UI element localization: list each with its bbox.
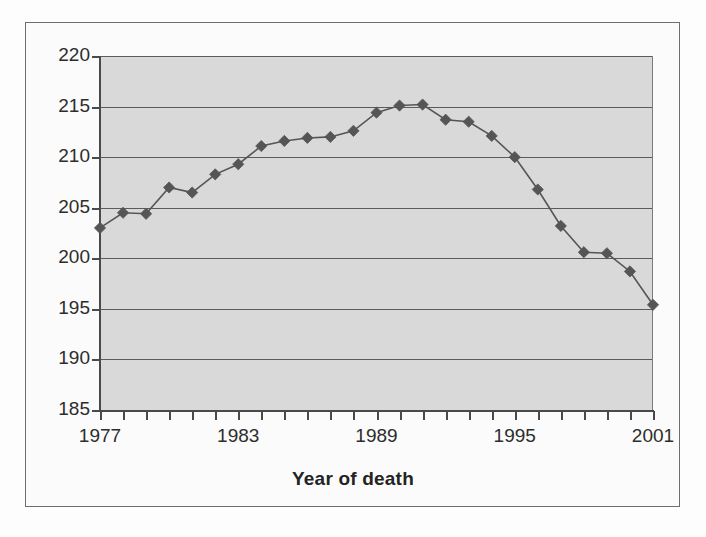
plot-area: [100, 56, 653, 410]
x-axis-tick: [146, 411, 148, 420]
y-axis-tick-label: 200: [36, 246, 90, 268]
y-axis-tick: [92, 258, 100, 260]
x-axis-tick: [238, 411, 240, 420]
x-axis-tick: [123, 411, 125, 420]
y-axis-tick: [92, 359, 100, 361]
y-axis-tick-label: 220: [36, 44, 90, 66]
x-axis-tick-label: 1977: [65, 425, 135, 447]
x-axis-tick-label: 1989: [342, 425, 412, 447]
gridline: [100, 309, 653, 310]
gridline: [100, 258, 653, 259]
x-axis-tick: [492, 411, 494, 420]
y-axis-labels-group: 220215210205200195190185: [28, 0, 90, 537]
y-axis-tick: [92, 410, 100, 412]
x-axis-tick: [353, 411, 355, 420]
x-axis-tick: [100, 411, 102, 420]
x-axis-tick: [169, 411, 171, 420]
x-axis-tick: [423, 411, 425, 420]
x-axis-tick: [307, 411, 309, 420]
x-axis-tick: [192, 411, 194, 420]
x-axis-tick: [561, 411, 563, 420]
plot-right-spine: [652, 56, 653, 411]
gridline: [100, 56, 653, 57]
y-axis-tick-label: 205: [36, 196, 90, 218]
x-axis-tick: [469, 411, 471, 420]
x-axis-tick: [284, 411, 286, 420]
y-axis-spine: [99, 56, 101, 411]
x-axis-tick: [215, 411, 217, 420]
gridline: [100, 208, 653, 209]
x-axis-title: Year of death: [0, 468, 706, 490]
y-axis-tick-label: 210: [36, 145, 90, 167]
x-axis-tick: [400, 411, 402, 420]
x-axis-tick: [377, 411, 379, 420]
x-axis-tick: [446, 411, 448, 420]
x-axis-tick: [653, 411, 655, 420]
y-axis-tick: [92, 56, 100, 58]
x-axis-tick: [330, 411, 332, 420]
x-axis-tick: [538, 411, 540, 420]
x-axis-tick-label: 2001: [618, 425, 688, 447]
y-axis-tick: [92, 157, 100, 159]
y-axis-tick: [92, 107, 100, 109]
x-axis-tick: [261, 411, 263, 420]
gridline: [100, 107, 653, 108]
gridline: [100, 157, 653, 158]
x-axis-tick: [607, 411, 609, 420]
y-axis-tick: [92, 208, 100, 210]
x-axis-tick: [584, 411, 586, 420]
y-axis-tick-label: 185: [36, 398, 90, 420]
y-axis-tick: [92, 309, 100, 311]
gridline: [100, 359, 653, 360]
y-axis-tick-label: 195: [36, 297, 90, 319]
x-axis-tick: [515, 411, 517, 420]
x-axis-tick-label: 1995: [480, 425, 550, 447]
x-axis-tick: [630, 411, 632, 420]
y-axis-tick-label: 190: [36, 347, 90, 369]
chart-figure: 220215210205200195190185 197719831989199…: [0, 0, 706, 537]
x-axis-tick-label: 1983: [203, 425, 273, 447]
y-axis-tick-label: 215: [36, 95, 90, 117]
